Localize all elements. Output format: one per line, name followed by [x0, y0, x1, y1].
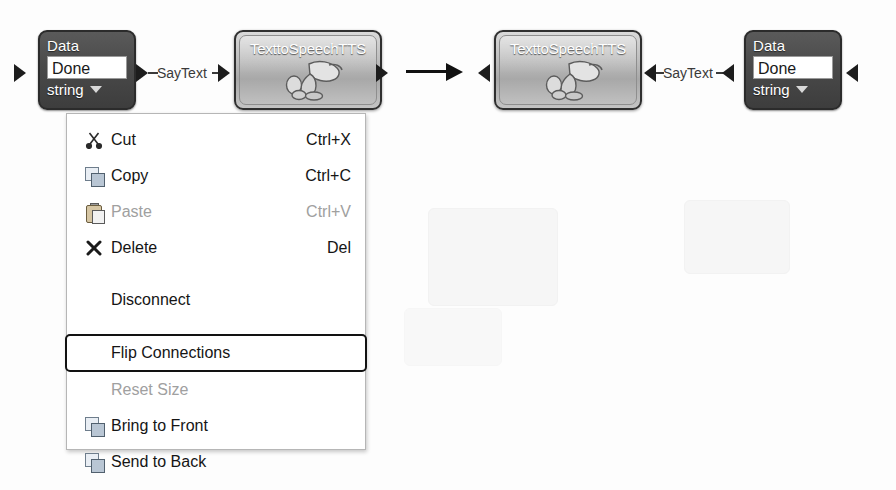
arrow-left-icon	[478, 64, 490, 82]
scissors-icon	[77, 131, 111, 149]
menu-item-shortcut: Ctrl+C	[289, 167, 351, 185]
menu-item-label: Copy	[111, 167, 289, 185]
menu-separator	[67, 318, 365, 334]
arrow-left-icon	[846, 64, 858, 82]
menu-item-disconnect[interactable]: Disconnect	[67, 282, 365, 318]
arrow-right-icon	[136, 64, 148, 82]
menu-separator	[67, 266, 365, 282]
connection-label-saytext: SayText	[663, 65, 713, 81]
menu-item-reset-size: Reset Size	[67, 372, 365, 408]
menu-item-cut[interactable]: CutCtrl+X	[67, 122, 365, 158]
menu-item-paste: PasteCtrl+V	[67, 194, 365, 230]
menu-item-label: Send to Back	[111, 453, 335, 471]
node-value-field[interactable]: Done	[47, 56, 127, 79]
node-data-before[interactable]: Data Done string	[38, 30, 136, 110]
node-type-label: string	[753, 81, 790, 98]
diagram-canvas: Data Done string SayText TexttoSpeechTTS	[0, 0, 896, 490]
menu-item-shortcut: Ctrl+X	[290, 131, 351, 149]
node-texttospeech-before[interactable]: TexttoSpeechTTS	[234, 30, 382, 110]
node-type-label: string	[47, 81, 84, 98]
layers-back-icon	[77, 453, 111, 472]
menu-item-label: Flip Connections	[111, 344, 335, 362]
connection-label-saytext: SayText	[157, 65, 207, 81]
caret-down-icon[interactable]	[90, 86, 102, 93]
arrow-left-icon	[722, 64, 734, 82]
arrow-right-icon	[218, 64, 230, 82]
node-value-field[interactable]: Done	[753, 56, 833, 79]
menu-item-label: Bring to Front	[111, 417, 335, 435]
menu-item-send-to-back[interactable]: Send to Back	[67, 444, 365, 480]
menu-item-copy[interactable]: CopyCtrl+C	[67, 158, 365, 194]
layers-front-icon	[77, 417, 111, 436]
copy-icon	[77, 167, 111, 186]
x-delete-icon	[77, 239, 111, 257]
menu-item-shortcut: Del	[311, 239, 351, 257]
arrow-left-icon	[644, 64, 656, 82]
arrow-right-icon	[14, 64, 26, 82]
menu-item-label: Reset Size	[111, 381, 335, 399]
background-artifact	[684, 200, 790, 274]
arrow-right-icon	[376, 64, 388, 82]
node-data-after[interactable]: Data Done string	[744, 30, 842, 110]
background-artifact	[428, 208, 558, 306]
megaphone-icon	[240, 54, 376, 102]
menu-item-bring-to-front[interactable]: Bring to Front	[67, 408, 365, 444]
node-texttospeech-after[interactable]: TexttoSpeechTTS	[494, 30, 642, 110]
menu-item-label: Delete	[111, 239, 311, 257]
menu-item-label: Paste	[111, 203, 290, 221]
background-artifact	[404, 308, 502, 366]
paste-icon	[77, 203, 111, 222]
transform-arrow-icon	[406, 63, 466, 81]
menu-item-label: Disconnect	[111, 291, 335, 309]
menu-item-shortcut: Ctrl+V	[290, 203, 351, 221]
caret-down-icon[interactable]	[796, 86, 808, 93]
menu-item-flip-connections[interactable]: Flip Connections	[65, 334, 367, 372]
megaphone-icon	[500, 54, 636, 102]
menu-item-label: Cut	[111, 131, 290, 149]
menu-item-delete[interactable]: DeleteDel	[67, 230, 365, 266]
context-menu[interactable]: CutCtrl+XCopyCtrl+CPasteCtrl+VDeleteDelD…	[66, 113, 366, 450]
node-title: Data	[47, 37, 127, 54]
node-title: Data	[753, 37, 833, 54]
